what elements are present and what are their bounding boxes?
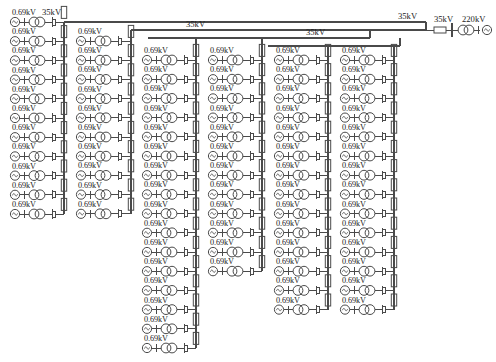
feeder-voltage-label: 0.69kV <box>144 219 168 228</box>
generator-icon <box>142 151 151 160</box>
circuit-breaker-icon <box>184 247 187 256</box>
circuit-breaker-icon <box>184 228 187 237</box>
feeder-voltage-label: 0.69kV <box>210 104 234 113</box>
top-left-mv-label: 35kV <box>42 7 62 17</box>
transformer-icon <box>161 113 177 123</box>
generator-icon <box>274 171 283 180</box>
generator-icon <box>208 94 217 103</box>
generator-icon <box>10 209 19 218</box>
circuit-breaker-icon <box>316 286 319 295</box>
generator-icon <box>142 228 151 237</box>
feeder-voltage-label: 0.69kV <box>276 161 300 170</box>
circuit-breaker-icon <box>382 171 385 180</box>
feeder-voltage-label: 0.69kV <box>12 27 36 36</box>
generator-icon <box>142 305 151 314</box>
feeder-voltage-label: 0.69kV <box>78 104 102 113</box>
circuit-breaker-icon <box>382 247 385 256</box>
transformer-icon <box>161 324 177 334</box>
transformer-icon <box>95 132 111 142</box>
generator-icon <box>208 75 217 84</box>
transformer-icon <box>161 132 177 142</box>
generator-icon <box>142 94 151 103</box>
generator-icon <box>340 151 349 160</box>
transformer-icon <box>227 74 243 84</box>
feeder-voltage-label: 0.69kV <box>276 180 300 189</box>
transformer-icon <box>227 170 243 180</box>
generator-icon <box>76 209 85 218</box>
feeder-voltage-label: 0.69kV <box>144 65 168 74</box>
circuit-breaker-icon <box>184 286 187 295</box>
single-line-diagram-canvas: 35kV35kV35kV0.69kV0.69kV0.69kV0.69kV0.69… <box>0 0 496 362</box>
transformer-icon <box>359 170 375 180</box>
generator-icon <box>274 151 283 160</box>
circuit-breaker-icon <box>184 151 187 160</box>
feeder-voltage-label: 0.69kV <box>12 181 36 190</box>
transformer-icon <box>359 55 375 65</box>
feeder-voltage-label: 0.69kV <box>78 142 102 151</box>
substation-transformer-icon <box>458 25 474 35</box>
generator-icon <box>142 343 151 352</box>
feeder-voltage-label: 0.69kV <box>342 84 366 93</box>
transformer-icon <box>161 151 177 161</box>
feeder-voltage-label: 0.69kV <box>342 104 366 113</box>
generator-icon <box>340 55 349 64</box>
transformer-icon <box>227 132 243 142</box>
circuit-breaker-icon <box>118 190 121 199</box>
feeder-voltage-label: 0.69kV <box>276 104 300 113</box>
transformer-icon <box>359 286 375 296</box>
generator-icon <box>76 75 85 84</box>
generator-icon <box>76 56 85 65</box>
feeder-voltage-label: 0.69kV <box>210 180 234 189</box>
transformer-icon <box>359 209 375 219</box>
transformer-icon <box>29 132 45 142</box>
feeder-voltage-label: 0.69kV <box>342 65 366 74</box>
feeder-voltage-label: 0.69kV <box>144 276 168 285</box>
transformer-icon <box>161 228 177 238</box>
generator-icon <box>274 228 283 237</box>
circuit-breaker-icon <box>184 209 187 218</box>
transformer-icon <box>293 132 309 142</box>
transformer-icon <box>293 286 309 296</box>
transformer-icon <box>29 209 45 219</box>
generator-icon <box>340 209 349 218</box>
transformer-icon <box>161 190 177 200</box>
feeder-voltage-label: 0.69kV <box>144 104 168 113</box>
feeder-layer <box>10 6 396 353</box>
circuit-breaker-icon <box>184 113 187 122</box>
generator-icon <box>10 152 19 161</box>
transformer-icon <box>293 305 309 315</box>
circuit-breaker-icon <box>52 209 55 218</box>
feeder-voltage-label: 0.69kV <box>78 65 102 74</box>
diagram-svg: 35kV35kV35kV0.69kV0.69kV0.69kV0.69kV0.69… <box>0 0 496 362</box>
feeder-voltage-label: 0.69kV <box>144 161 168 170</box>
circuit-breaker-icon <box>316 75 319 84</box>
substation-layer <box>426 23 492 37</box>
circuit-breaker-icon <box>316 190 319 199</box>
feeder-voltage-label: 0.69kV <box>342 123 366 132</box>
generator-icon <box>10 171 19 180</box>
transformer-icon <box>161 74 177 84</box>
transformer-icon <box>29 171 45 181</box>
transformer-icon <box>293 190 309 200</box>
generator-icon <box>76 94 85 103</box>
feeder-voltage-label: 0.69kV <box>144 238 168 247</box>
grid-source-icon <box>482 25 491 34</box>
circuit-breaker-icon <box>184 132 187 141</box>
transformer-icon <box>359 151 375 161</box>
feeder-voltage-label: 0.69kV <box>276 219 300 228</box>
main-bus-label: 35kV <box>398 11 418 21</box>
feeder-voltage-label: 0.69kV <box>276 123 300 132</box>
generator-icon <box>340 113 349 122</box>
generator-icon <box>76 132 85 141</box>
circuit-breaker-icon <box>250 94 253 103</box>
generator-icon <box>274 190 283 199</box>
circuit-breaker-icon <box>118 75 121 84</box>
transformer-icon <box>359 266 375 276</box>
feeder-voltage-label: 0.69kV <box>12 85 36 94</box>
transformer-icon <box>29 190 45 200</box>
generator-icon <box>142 190 151 199</box>
reactor-icon <box>61 6 66 18</box>
transformer-icon <box>95 36 111 46</box>
generator-icon <box>76 171 85 180</box>
transformer-icon <box>293 209 309 219</box>
